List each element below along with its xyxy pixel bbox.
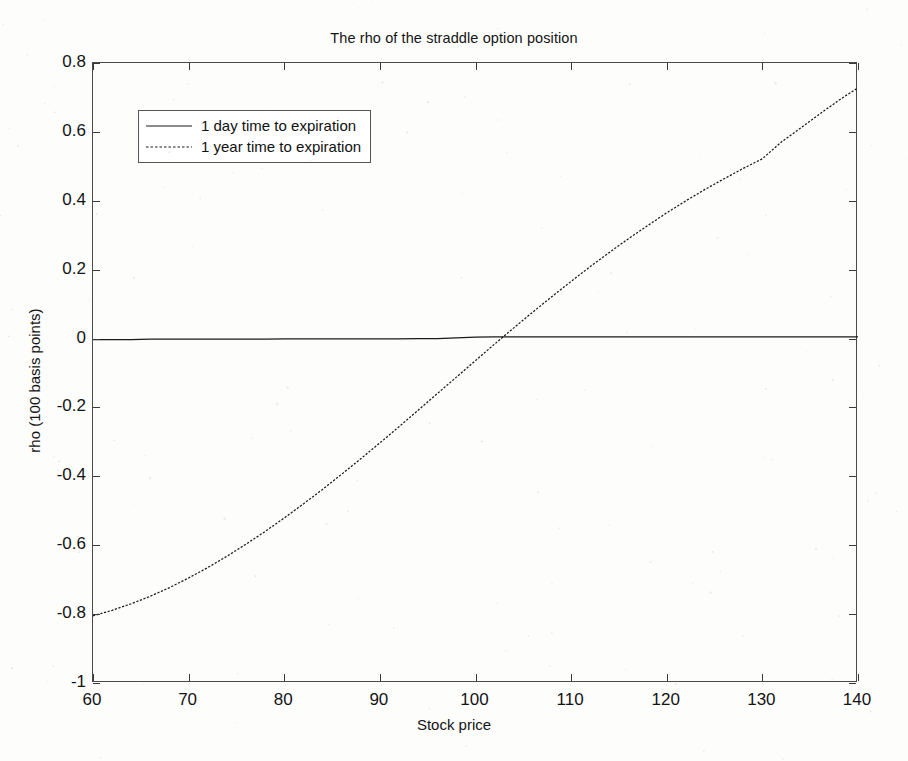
x-tick-label: 100 [460,690,488,710]
x-tick-label: 130 [747,690,775,710]
x-tick-mark [380,63,381,70]
x-axis-label: Stock price [0,716,908,733]
x-tick-label: 110 [557,690,584,710]
legend-line-solid-icon [146,121,192,131]
x-tick-label: 60 [83,690,102,710]
x-tick-mark [667,674,668,681]
x-tick-mark [189,63,190,70]
y-tick-mark [849,270,856,271]
y-tick-mark [93,545,100,546]
series-line-1 [93,337,858,340]
y-tick-label: 0 [77,328,86,348]
y-tick-mark [93,339,100,340]
y-tick-mark [849,132,856,133]
x-tick-label: 90 [369,690,388,710]
y-axis-label: rho (100 basis points) [26,251,43,511]
y-tick-mark [849,201,856,202]
y-tick-mark [93,270,100,271]
x-tick-mark [93,63,94,70]
x-tick-label: 80 [274,690,293,710]
x-tick-mark [571,63,572,70]
legend-label-1-day: 1 day time to expiration [201,117,356,134]
y-tick-mark [93,201,100,202]
x-tick-mark [284,674,285,681]
y-tick-label: 0.8 [62,52,86,72]
y-tick-mark [849,683,856,684]
x-tick-mark [571,674,572,681]
y-tick-mark [93,683,100,684]
legend-item-1-day: 1 day time to expiration [146,115,361,136]
x-tick-mark [762,674,763,681]
x-tick-mark [667,63,668,70]
x-tick-mark [93,674,94,681]
chart-title: The rho of the straddle option position [0,30,908,46]
x-tick-label: 140 [843,690,871,710]
y-tick-mark [849,63,856,64]
legend-label-1-year: 1 year time to expiration [201,138,361,155]
y-tick-mark [849,407,856,408]
x-tick-mark [476,674,477,681]
y-tick-mark [849,476,856,477]
x-tick-mark [858,63,859,70]
x-tick-label: 70 [178,690,197,710]
x-tick-mark [284,63,285,70]
y-tick-mark [93,132,100,133]
y-tick-label: 0.2 [62,259,86,279]
y-tick-label: -0.8 [57,603,86,623]
y-tick-mark [93,476,100,477]
legend-item-1-year: 1 year time to expiration [146,136,361,157]
series-line-2 [93,88,858,616]
y-tick-label: 0.6 [62,121,86,141]
figure-canvas: The rho of the straddle option position … [0,0,908,761]
y-tick-mark [93,63,100,64]
x-tick-mark [762,63,763,70]
x-tick-mark [189,674,190,681]
y-tick-label: 0.4 [62,190,86,210]
y-tick-mark [93,614,100,615]
y-tick-mark [849,545,856,546]
x-tick-label: 120 [652,690,680,710]
y-tick-label: -0.4 [57,465,86,485]
chart-legend: 1 day time to expiration 1 year time to … [138,110,371,163]
y-tick-mark [93,407,100,408]
x-tick-mark [380,674,381,681]
x-tick-mark [858,674,859,681]
y-tick-label: -0.2 [57,396,86,416]
legend-line-dotted-icon [146,142,192,152]
y-tick-label: -0.6 [57,534,86,554]
y-tick-mark [849,614,856,615]
y-tick-label: -1 [71,672,86,692]
x-tick-mark [476,63,477,70]
y-tick-mark [849,339,856,340]
